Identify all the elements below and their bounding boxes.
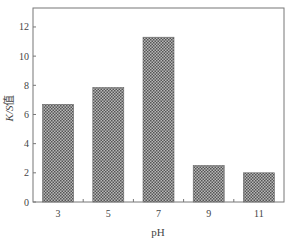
y-tick-label: 12 [19,21,29,32]
bar-ph-7 [143,37,174,202]
x-tick-label: 11 [254,208,264,219]
bar-chart: 024681012 357911 pH K/S值 [0,0,291,242]
y-tick-label: 0 [24,197,29,208]
bars-group [43,37,275,202]
x-tick-label: 9 [206,208,211,219]
bar-ph-11 [243,173,274,202]
y-tick-label: 2 [24,167,29,178]
x-tick-label: 7 [156,208,161,219]
x-tick-label: 5 [106,208,111,219]
y-tick-label: 8 [24,80,29,91]
bar-ph-9 [193,166,224,203]
y-axis-title: K/S值 [3,95,15,123]
bar-ph-3 [43,104,74,202]
y-tick-label: 10 [19,51,29,62]
x-tick-label: 3 [56,208,61,219]
bar-ph-5 [93,88,124,203]
x-axis-title: pH [151,226,165,238]
y-tick-label: 4 [24,138,29,149]
y-tick-label: 6 [24,109,29,120]
